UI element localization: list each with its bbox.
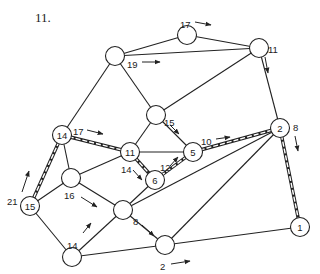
flow-value: 14	[67, 240, 78, 251]
edge-A-N14	[62, 56, 115, 135]
flow-arrow-icon	[133, 170, 142, 180]
edge-G-H	[72, 245, 165, 257]
edge-C-N2	[259, 48, 280, 128]
flow-label: 16	[64, 190, 97, 208]
flow-label: 17	[180, 19, 211, 30]
node-label: 14	[57, 130, 68, 141]
edge-N2-N1	[280, 128, 300, 227]
flow-arrow-icon	[195, 22, 211, 25]
node-a	[106, 47, 125, 66]
node-circle	[156, 236, 175, 255]
node-e	[62, 169, 81, 188]
flow-value: 17	[180, 19, 191, 30]
node-h	[156, 236, 175, 255]
network-diagram: 2141156151 1719111581017141221168142	[0, 0, 320, 274]
flow-label: 15	[164, 117, 179, 135]
flow-value: 2	[160, 261, 165, 272]
flow-label: 14	[121, 164, 142, 181]
node-5: 5	[184, 143, 203, 162]
node-1: 1	[291, 218, 310, 237]
flow-arrow-icon	[87, 130, 103, 134]
flow-value: 8	[293, 122, 298, 133]
flow-label: 8	[133, 216, 154, 237]
edge-G-F	[72, 210, 123, 257]
flow-arrow-icon	[216, 137, 230, 139]
node-c	[250, 39, 269, 58]
node-circle	[114, 201, 133, 220]
flow-arrow-icon	[22, 171, 29, 192]
edges-layer	[30, 35, 300, 257]
node-circle	[62, 169, 81, 188]
flow-label: 2	[160, 261, 190, 272]
flow-label: 17	[73, 126, 103, 137]
node-circle	[147, 106, 166, 125]
node-d	[147, 106, 166, 125]
node-label: 15	[25, 201, 36, 212]
flow-value: 17	[73, 126, 84, 137]
edge-H-N1	[165, 227, 300, 245]
flow-value: 10	[201, 136, 212, 147]
node-label: 1	[297, 222, 302, 233]
edge-C-D	[156, 48, 259, 115]
flow-arrow-icon	[81, 197, 97, 207]
flow-label: 19	[127, 59, 160, 70]
flow-label: 14	[67, 223, 91, 251]
node-label: 5	[190, 147, 195, 158]
flow-value: 12	[160, 162, 171, 173]
flow-arrow-icon	[83, 223, 91, 233]
edge-B-C	[187, 35, 259, 48]
flow-value: 15	[164, 117, 175, 128]
node-6: 6	[146, 171, 165, 190]
flow-arrow-icon	[295, 136, 298, 151]
node-label: 6	[152, 175, 157, 186]
node-label: 2	[277, 123, 282, 134]
node-2: 2	[271, 119, 290, 138]
node-f	[114, 201, 133, 220]
flow-value: 11	[268, 44, 278, 55]
flow-value: 16	[64, 190, 75, 201]
node-circle	[106, 47, 125, 66]
flow-arrow-icon	[142, 225, 154, 236]
flow-arrow-icon	[171, 261, 190, 264]
node-15: 15	[21, 197, 40, 216]
node-11: 11	[121, 143, 140, 162]
node-14: 14	[53, 126, 72, 145]
node-circle	[250, 39, 269, 58]
flow-value: 14	[121, 164, 132, 175]
edge-N14-N11	[62, 135, 130, 152]
flow-value: 19	[127, 59, 138, 70]
flow-value: 8	[133, 216, 138, 227]
flow-label: 8	[293, 122, 298, 152]
node-label: 11	[125, 147, 135, 158]
flow-value: 21	[7, 196, 18, 207]
